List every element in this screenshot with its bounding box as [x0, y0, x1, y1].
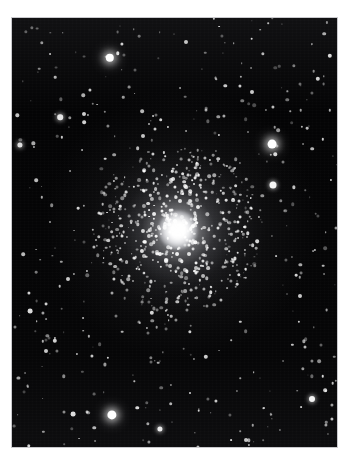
- star: [152, 212, 156, 216]
- page-header-text-remnant: · · · · · · · · ·: [0, 0, 346, 10]
- star: [185, 222, 188, 225]
- star: [78, 438, 80, 440]
- star: [313, 327, 314, 328]
- star: [261, 52, 264, 55]
- star: [190, 208, 193, 211]
- star: [137, 178, 141, 182]
- star: [251, 185, 255, 189]
- star: [159, 265, 161, 267]
- star: [298, 321, 300, 323]
- star: [83, 301, 84, 302]
- star: [157, 192, 160, 195]
- star: [232, 198, 234, 200]
- star: [35, 249, 37, 251]
- star: [203, 305, 205, 307]
- star: [159, 31, 161, 33]
- star: [49, 53, 51, 55]
- star: [323, 76, 324, 77]
- star: [236, 176, 238, 178]
- star: [309, 396, 315, 402]
- star: [122, 231, 125, 234]
- star: [108, 226, 110, 228]
- star: [177, 191, 179, 193]
- star: [35, 300, 38, 303]
- star: [142, 271, 145, 274]
- star: [225, 199, 228, 202]
- star: [236, 390, 238, 392]
- star: [321, 138, 323, 140]
- star: [175, 196, 178, 199]
- star: [126, 288, 129, 291]
- star: [286, 98, 290, 102]
- star: [212, 182, 215, 185]
- star: [40, 41, 43, 44]
- star: [122, 96, 125, 99]
- star: [306, 127, 309, 130]
- star: [260, 219, 261, 220]
- star: [152, 152, 155, 155]
- star: [228, 166, 231, 169]
- star: [56, 349, 59, 352]
- star: [206, 213, 209, 216]
- star: [247, 201, 249, 203]
- star: [56, 135, 59, 138]
- star: [73, 230, 75, 232]
- star: [175, 252, 179, 256]
- star: [137, 185, 140, 188]
- star: [187, 174, 190, 177]
- star: [169, 199, 171, 201]
- star: [183, 281, 187, 285]
- star: [299, 264, 302, 267]
- star: [169, 178, 173, 182]
- star: [140, 245, 142, 247]
- star: [182, 232, 185, 235]
- star: [105, 228, 106, 229]
- star: [207, 295, 210, 298]
- star: [241, 99, 245, 103]
- star: [333, 356, 336, 359]
- star: [155, 229, 157, 231]
- star: [88, 89, 91, 92]
- star: [244, 117, 248, 121]
- star: [152, 115, 154, 117]
- star: [73, 273, 75, 275]
- star: [167, 126, 169, 128]
- star: [147, 440, 150, 443]
- star: [210, 262, 213, 265]
- star: [205, 108, 208, 111]
- star: [121, 182, 124, 185]
- star: [150, 158, 151, 159]
- star: [33, 146, 35, 148]
- star: [236, 230, 239, 233]
- star: [247, 131, 249, 133]
- star: [155, 326, 158, 329]
- star: [145, 255, 148, 258]
- star: [171, 256, 173, 258]
- star: [195, 194, 198, 197]
- star: [98, 343, 102, 347]
- star: [183, 227, 186, 230]
- star: [214, 76, 217, 79]
- star: [96, 254, 100, 258]
- star: [122, 54, 125, 57]
- star: [241, 62, 243, 64]
- star: [42, 398, 44, 400]
- star: [50, 32, 51, 33]
- star: [40, 196, 42, 198]
- star: [184, 185, 188, 189]
- star: [193, 183, 195, 185]
- star: [171, 422, 172, 423]
- star: [287, 91, 288, 92]
- star: [165, 328, 168, 331]
- star: [42, 431, 44, 433]
- star: [148, 228, 152, 232]
- star: [195, 198, 199, 202]
- star: [95, 239, 97, 241]
- star: [152, 182, 155, 185]
- star: [224, 42, 225, 43]
- star: [121, 69, 123, 71]
- star: [161, 252, 164, 255]
- star: [87, 114, 89, 116]
- star: [334, 284, 335, 285]
- star: [110, 230, 114, 234]
